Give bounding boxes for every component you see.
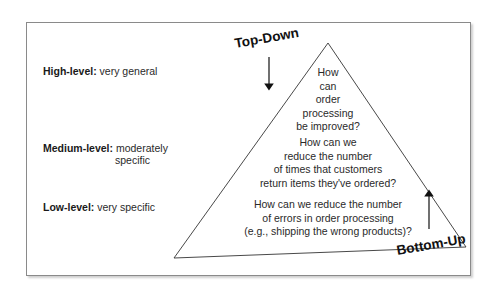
question-high: How can order processing be improved? [278,66,378,134]
question-line: How can we reduce the number [238,198,418,212]
level-medium-description-cont: specific [115,154,150,167]
question-line: can [278,80,378,94]
question-line: order [278,93,378,107]
level-medium-label: Medium-level: [43,142,113,154]
question-line: reduce the number [253,150,403,164]
level-high: High-level: very general [43,65,157,78]
question-low: How can we reduce the number of errors i… [238,198,418,239]
level-high-label: High-level: [43,65,97,77]
question-line: (e.g., shipping the wrong products)? [238,225,418,239]
question-line: be improved? [278,120,378,134]
question-line: processing [278,107,378,121]
level-low-description: very specific [97,201,155,213]
question-line: How [278,66,378,80]
level-medium-description: moderately [116,142,168,154]
level-low: Low-level: very specific [43,201,155,214]
question-medium: How can we reduce the number of times th… [253,136,403,190]
question-line: of times that customers [253,163,403,177]
question-line: How can we [253,136,403,150]
question-line: of errors in order processing [238,212,418,226]
level-high-description: very general [100,65,158,77]
question-line: return items they've ordered? [253,177,403,191]
level-low-label: Low-level: [43,201,94,213]
